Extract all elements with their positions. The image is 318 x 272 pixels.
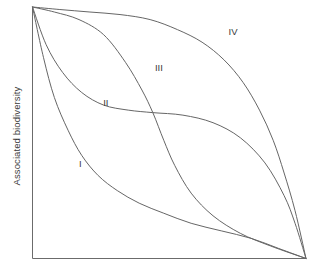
curve-annotation-iv: IV (229, 26, 239, 37)
chart-figure: Associated biodiversity IIIIIIIV (0, 0, 318, 272)
curve-i (33, 7, 307, 259)
curve-iii (33, 7, 307, 259)
curve-annotation-iii: III (155, 62, 163, 73)
curve-annotation-i: I (79, 158, 82, 169)
curve-ii (33, 7, 307, 259)
curve-group (33, 7, 307, 259)
axis-frame (33, 7, 307, 259)
curve-label-group: IIIIIIIV (79, 26, 238, 168)
curve-annotation-ii: II (103, 97, 108, 108)
curve-iv (33, 7, 307, 259)
plot-area: IIIIIIIV (0, 0, 318, 272)
